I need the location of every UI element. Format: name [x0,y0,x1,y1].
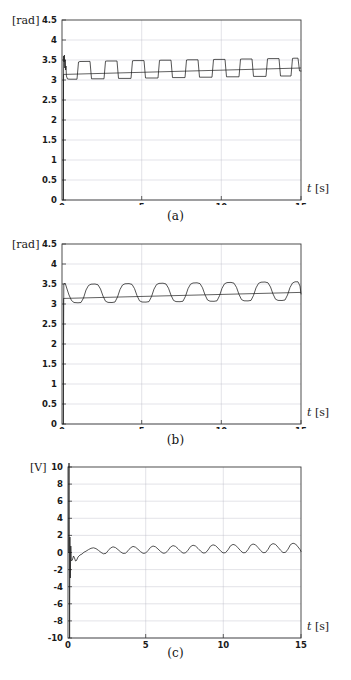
panel-a-caption: (a) [0,209,351,223]
panel-c-ytick-10: 10 [51,462,63,472]
panel-a-ytick-3: 1.5 [42,135,57,145]
panel-b-xlabel: t [s] [307,406,329,419]
panel-c-ytick-4: -2 [54,565,64,575]
panel-a-xtick-0: 0 [59,202,65,205]
panel-b-axes-box [62,244,301,424]
panel-a-ytick-2: 1 [51,155,57,165]
panel-b-ytick-0: 0 [51,419,57,429]
panel-c-ytick-8: 6 [57,496,63,506]
panel-a-ylabel: [rad] [12,14,39,27]
panel-b-xlabel-unit: [s] [315,406,329,419]
panel-a-xtick-3: 15 [295,202,307,205]
panel-b: 0 0.5 1 1.5 2 2.5 3 3.5 4 4.5 0 5 10 15 … [0,224,351,429]
panel-b-caption: (b) [0,433,351,447]
panel-a-xtick-1: 5 [139,202,145,205]
panel-b-xtick-2: 10 [215,426,227,429]
panel-a-ytick-1: 0.5 [42,175,57,185]
panel-a-gridlines [62,20,301,200]
panel-c-ytick-0: -10 [48,633,63,643]
panel-a-xlabel-unit: [s] [315,182,329,195]
three-panel-figure: 0 0.5 1 1.5 2 2.5 3 3.5 4 4.5 0 5 10 15 … [0,0,351,680]
panel-b-ytick-2: 1 [51,379,57,389]
panel-a-ytick-labels: 0 0.5 1 1.5 2 2.5 3 3.5 4 4.5 [42,15,57,205]
panel-b-ytick-8: 4 [51,259,57,269]
panel-a-tick-marks [62,20,301,200]
panel-c-xlabel: t [s] [307,620,329,633]
panel-a-plot: 0 0.5 1 1.5 2 2.5 3 3.5 4 4.5 0 5 10 15 … [0,0,351,205]
panel-a-output-line [63,55,301,200]
panel-c-plot: -10 -8 -6 -4 -2 0 2 4 6 8 10 0 5 10 15 [… [0,452,351,652]
panel-b-xtick-labels: 0 5 10 15 [59,426,307,429]
panel-b-plot: 0 0.5 1 1.5 2 2.5 3 3.5 4 4.5 0 5 10 15 … [0,224,351,429]
panel-c-ytick-3: -4 [54,582,64,592]
panel-c-ytick-6: 2 [57,530,63,540]
panel-c: -10 -8 -6 -4 -2 0 2 4 6 8 10 0 5 10 15 [… [0,452,351,652]
panel-a-xtick-labels: 0 5 10 15 [59,202,307,205]
panel-c-ylabel: [V] [30,461,47,474]
panel-a-ytick-4: 2 [51,115,57,125]
panel-c-control-line [69,463,301,638]
panel-b-ytick-4: 2 [51,339,57,349]
panel-b-ytick-5: 2.5 [42,319,57,329]
panel-b-ytick-9: 4.5 [42,239,57,249]
panel-c-xlabel-unit: [s] [315,620,329,633]
panel-a-ytick-0: 0 [51,195,57,205]
panel-b-ytick-6: 3 [51,299,57,309]
panel-b-ytick-labels: 0 0.5 1 1.5 2 2.5 3 3.5 4 4.5 [42,239,57,429]
panel-a-axes-box [62,20,301,200]
panel-c-ytick-2: -6 [54,599,64,609]
svg-text:t [s]: t [s] [307,620,329,633]
panel-a-ytick-8: 4 [51,35,57,45]
panel-b-output-line [63,282,301,424]
panel-c-gridlines [68,467,301,638]
panel-b-reference-line [64,292,302,424]
panel-c-ytick-9: 8 [57,479,63,489]
panel-b-xtick-3: 15 [295,426,307,429]
panel-b-ytick-7: 3.5 [42,279,57,289]
panel-c-caption: (c) [0,646,351,660]
panel-a-ytick-6: 3 [51,75,57,85]
panel-b-ytick-1: 0.5 [42,399,57,409]
svg-text:t [s]: t [s] [307,182,329,195]
panel-b-gridlines [62,244,301,424]
panel-b-xtick-1: 5 [139,426,145,429]
svg-text:t [s]: t [s] [307,406,329,419]
panel-c-ytick-1: -8 [54,616,64,626]
panel-c-ytick-7: 4 [57,513,63,523]
panel-a: 0 0.5 1 1.5 2 2.5 3 3.5 4 4.5 0 5 10 15 … [0,0,351,205]
panel-a-ytick-7: 3.5 [42,55,57,65]
panel-a-xlabel: t [s] [307,182,329,195]
panel-c-ytick-labels: -10 -8 -6 -4 -2 0 2 4 6 8 10 [48,462,63,643]
panel-a-ytick-5: 2.5 [42,95,57,105]
panel-b-ylabel: [rad] [12,238,39,251]
panel-a-xtick-2: 10 [215,202,227,205]
panel-a-ytick-9: 4.5 [42,15,57,25]
panel-b-tick-marks [62,244,301,424]
panel-b-ytick-3: 1.5 [42,359,57,369]
panel-c-ytick-5: 0 [57,548,63,558]
panel-b-xtick-0: 0 [59,426,65,429]
